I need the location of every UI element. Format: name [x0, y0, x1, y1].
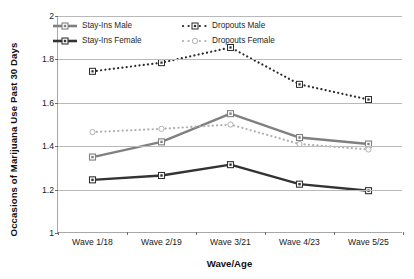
x-tick-label: Wave 2/19 [141, 237, 182, 247]
y-tick-label: 1.8 [42, 54, 54, 64]
y-axis-title: Occasions of Marijuana Use Past 30 Days [0, 0, 26, 279]
y-tick-label: 1 [49, 228, 54, 238]
x-tick-mark [127, 232, 128, 235]
x-tick-mark [265, 232, 266, 235]
legend-label: Stay-Ins Female [82, 36, 142, 45]
legend-label: Dropouts Female [212, 36, 275, 45]
x-tick-label: Wave 1/18 [72, 237, 113, 247]
x-tick-label: Wave 5/25 [348, 237, 389, 247]
x-tick-mark [58, 232, 59, 235]
gridline [58, 146, 402, 147]
y-tick-mark [55, 190, 58, 191]
gridline [58, 190, 402, 191]
legend-swatch-icon [52, 36, 78, 46]
legend-item-stay-ins-male[interactable]: Stay-Ins Male [52, 21, 182, 31]
x-axis-title: Wave/Age [57, 258, 402, 269]
chart-figure: Occasions of Marijuana Use Past 30 Days … [0, 0, 414, 279]
legend-swatch-icon [182, 21, 208, 31]
series-stay-ins-male [90, 111, 372, 160]
legend-swatch-icon [182, 36, 208, 46]
y-tick-mark [55, 146, 58, 147]
x-tick-label: Wave 3/21 [210, 237, 251, 247]
x-tick-mark [334, 232, 335, 235]
legend-item-dropouts-female[interactable]: Dropouts Female [182, 36, 342, 46]
gridline [58, 16, 402, 17]
y-tick-mark [55, 103, 58, 104]
gridline [58, 103, 402, 104]
data-series-layer [58, 16, 403, 233]
legend-item-stay-ins-female[interactable]: Stay-Ins Female [52, 36, 182, 46]
series-dropouts-male [90, 44, 372, 102]
legend-item-dropouts-male[interactable]: Dropouts Male [182, 21, 342, 31]
gridline [58, 59, 402, 60]
plot-area: 11.21.41.61.82 Wave 1/18Wave 2/19Wave 3/… [57, 16, 402, 233]
x-tick-mark [403, 232, 404, 235]
y-tick-label: 1.6 [42, 98, 54, 108]
x-tick-mark [196, 232, 197, 235]
chart-legend: Stay-Ins Male Dropouts Male Stay-Ins Fem… [52, 18, 342, 48]
y-tick-label: 1.2 [42, 185, 54, 195]
x-tick-label: Wave 4/23 [279, 237, 320, 247]
y-tick-mark [55, 16, 58, 17]
legend-label: Stay-Ins Male [82, 21, 132, 30]
y-tick-mark [55, 59, 58, 60]
legend-label: Dropouts Male [212, 21, 265, 30]
legend-swatch-icon [52, 21, 78, 31]
y-tick-label: 1.4 [42, 141, 54, 151]
